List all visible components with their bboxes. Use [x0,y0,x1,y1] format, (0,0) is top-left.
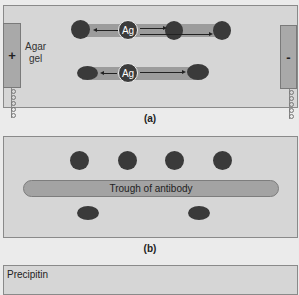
trough-label: Trough of antibody [109,183,192,194]
plus-icon: + [8,48,16,63]
top-left-arrow [96,30,118,31]
panel-a-agar-gel [3,5,298,108]
upper-well-3 [165,151,184,170]
wire-coil [289,96,294,101]
antigen-label: Ag [122,68,134,79]
top-left-well [71,20,90,39]
anode-electrode: + [3,23,21,88]
wire-coil [289,108,294,113]
agar-label-line1: Agar [25,41,46,53]
upper-well-2 [118,151,137,170]
cathode-wire [289,89,296,119]
minus-icon: - [286,50,290,65]
upper-well-1 [70,151,89,170]
antibody-trough: Trough of antibody [23,180,279,197]
top-middle-well [165,21,183,40]
top-right-arrow-short [140,28,164,29]
wire-coil [289,102,294,107]
top-right-well [213,21,231,40]
wire-coil [289,114,294,119]
wire-coil [11,101,16,106]
antigen-label: Ag [122,25,134,36]
lower-well-1 [77,206,99,220]
agar-label-line2: gel [25,53,46,65]
cathode-electrode: - [280,25,297,89]
caption-b: (b) [144,243,157,254]
caption-a: (a) [144,113,156,124]
top-antigen-well: Ag [118,20,138,40]
bottom-right-arrow [140,72,183,73]
bottom-right-precipitate [187,64,209,80]
upper-well-4 [213,151,232,170]
wire-coil [11,95,16,100]
wire-coil [11,89,16,94]
precipitin-label: Precipitin [7,269,48,280]
wire-coil [11,113,16,118]
top-right-arrow-long [140,34,210,35]
bottom-antigen-well: Ag [118,63,138,83]
agar-gel-label: Agar gel [25,41,46,65]
wire-coil [289,90,294,95]
lower-well-2 [188,206,210,220]
anode-wire [11,88,18,118]
wire-coil [11,107,16,112]
bottom-left-arrow [103,73,117,74]
bottom-left-precipitate [77,66,98,80]
